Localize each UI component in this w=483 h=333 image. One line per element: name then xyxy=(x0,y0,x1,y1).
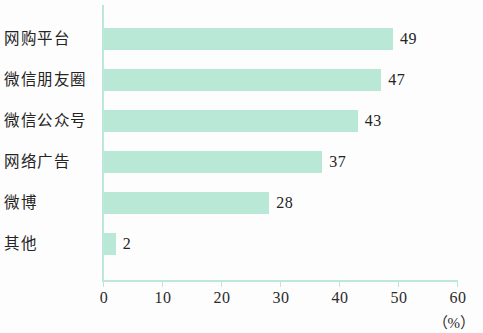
bar-value-label: 2 xyxy=(123,233,132,255)
category-label: 网络广告 xyxy=(0,151,96,173)
bar-value-label: 43 xyxy=(365,110,382,132)
category-label: 其他 xyxy=(0,233,96,255)
x-axis-tick-mark xyxy=(339,282,340,287)
x-axis-tick-label: 10 xyxy=(143,289,183,307)
x-axis-unit-label: （%） xyxy=(433,311,476,332)
x-axis-tick-mark xyxy=(162,282,163,287)
bar-row: 微信朋友圈47 xyxy=(0,69,483,91)
category-label: 微信朋友圈 xyxy=(0,69,96,91)
x-axis-tick-label: 20 xyxy=(202,289,242,307)
x-axis-tick-label: 0 xyxy=(84,289,124,307)
bar xyxy=(104,110,358,132)
bar-value-label: 37 xyxy=(329,151,346,173)
bar xyxy=(104,69,381,91)
horizontal-bar-chart: 0102030405060 网购平台49微信朋友圈47微信公众号43网络广告37… xyxy=(0,0,483,333)
bar-row: 网购平台49 xyxy=(0,28,483,50)
x-axis-tick-mark xyxy=(280,282,281,287)
x-axis-tick-label: 40 xyxy=(320,289,360,307)
x-axis-tick-mark xyxy=(457,282,458,287)
x-axis-tick-label: 60 xyxy=(438,289,478,307)
x-axis-tick-mark xyxy=(398,282,399,287)
category-label: 微博 xyxy=(0,192,96,214)
x-axis-tick-label: 50 xyxy=(379,289,419,307)
category-label: 微信公众号 xyxy=(0,110,96,132)
bar-row: 其他2 xyxy=(0,233,483,255)
bar xyxy=(104,28,393,50)
x-axis-tick-mark xyxy=(103,282,104,287)
bar xyxy=(104,233,116,255)
bar-value-label: 49 xyxy=(400,28,417,50)
bar-row: 网络广告37 xyxy=(0,151,483,173)
bar-value-label: 28 xyxy=(276,192,293,214)
x-axis-tick-mark xyxy=(221,282,222,287)
bar-value-label: 47 xyxy=(388,69,405,91)
bar xyxy=(104,151,322,173)
bar-row: 微博28 xyxy=(0,192,483,214)
bar-row: 微信公众号43 xyxy=(0,110,483,132)
x-axis-tick-label: 30 xyxy=(261,289,301,307)
category-label: 网购平台 xyxy=(0,28,96,50)
bar xyxy=(104,192,269,214)
